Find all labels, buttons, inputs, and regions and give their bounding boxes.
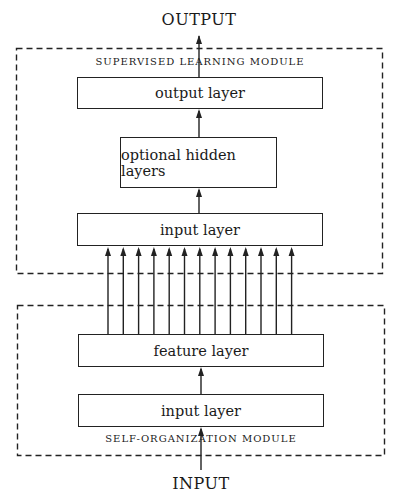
supervised-module-title: SUPERVISED LEARNING MODULE bbox=[80, 56, 320, 67]
feature-layer-box: feature layer bbox=[78, 334, 324, 367]
self-org-input-layer-box: input layer bbox=[78, 394, 324, 427]
supervised-input-layer-box: input layer bbox=[77, 213, 323, 246]
self-organization-module-title: SELF-ORGANIZATION MODULE bbox=[90, 433, 312, 444]
output-layer-box: output layer bbox=[77, 77, 323, 109]
hidden-layers-box: optional hidden layers bbox=[120, 137, 277, 188]
feature-to-input-connections bbox=[105, 247, 295, 334]
output-label: OUTPUT bbox=[149, 10, 249, 29]
input-label: INPUT bbox=[151, 474, 251, 493]
